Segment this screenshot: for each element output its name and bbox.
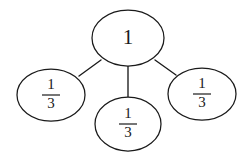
- node-third-left-denominator: 3: [47, 95, 55, 111]
- node-third-left-numerator: 1: [47, 76, 55, 92]
- diagram-canvas: 1 1 3 1 3 1 3: [0, 0, 247, 158]
- node-third-left[interactable]: 1 3: [17, 69, 85, 121]
- node-third-right-numerator: 1: [198, 75, 206, 91]
- node-whole[interactable]: 1: [92, 10, 164, 66]
- node-third-bottom[interactable]: 1 3: [95, 97, 161, 151]
- node-third-right[interactable]: 1 3: [168, 68, 236, 120]
- node-third-right-denominator: 3: [198, 94, 206, 110]
- node-third-bottom-numerator: 1: [124, 105, 132, 121]
- node-whole-label: 1: [123, 25, 134, 49]
- node-third-bottom-denominator: 3: [124, 124, 132, 140]
- connector-line-left: [79, 60, 101, 76]
- connector-line-right: [155, 60, 176, 75]
- fraction-diagram: 1 1 3 1 3 1 3: [0, 0, 247, 158]
